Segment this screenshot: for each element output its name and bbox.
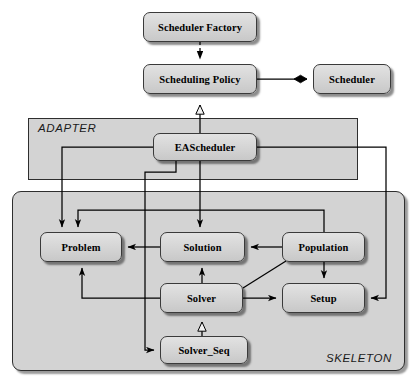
- class-node-label: Population: [298, 242, 348, 253]
- class-node-label: Solver_Seq: [178, 345, 229, 356]
- class-node-population[interactable]: Population: [282, 232, 365, 262]
- class-node-scheduler-factory[interactable]: Scheduler Factory: [143, 12, 257, 42]
- class-node-setup[interactable]: Setup: [282, 283, 365, 313]
- class-node-label: Setup: [310, 293, 336, 304]
- class-node-label: Scheduling Policy: [159, 74, 240, 85]
- class-node-scheduler[interactable]: Scheduler: [313, 64, 391, 94]
- class-node-solver-seq[interactable]: Solver_Seq: [160, 336, 248, 364]
- class-node-label: Solution: [183, 242, 221, 253]
- class-node-label: EAScheduler: [175, 142, 236, 153]
- class-node-scheduling-policy[interactable]: Scheduling Policy: [143, 64, 257, 94]
- class-node-problem[interactable]: Problem: [40, 232, 122, 262]
- package-skeleton-label: SKELETON: [326, 352, 392, 364]
- class-node-label: Problem: [62, 242, 101, 253]
- class-node-label: Scheduler: [329, 74, 375, 85]
- class-node-label: Scheduler Factory: [158, 22, 242, 33]
- class-node-solution[interactable]: Solution: [160, 232, 245, 262]
- class-node-eascheduler[interactable]: EAScheduler: [153, 133, 257, 161]
- uml-class-diagram: ADAPTER SKELETON: [0, 0, 418, 385]
- package-adapter-label: ADAPTER: [38, 122, 97, 134]
- class-node-label: Solver: [187, 293, 216, 304]
- class-node-solver[interactable]: Solver: [160, 283, 243, 313]
